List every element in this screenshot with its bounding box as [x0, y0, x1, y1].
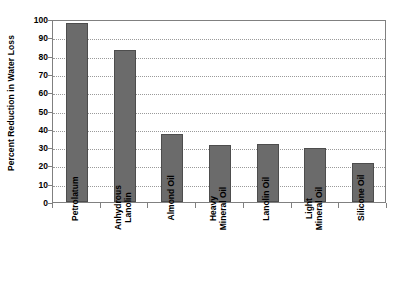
- x-category-label-text: Petrolatum: [71, 176, 81, 220]
- x-category-label-line: Mineral Oil: [219, 187, 229, 230]
- x-category-label: Almond Oil: [147, 209, 195, 281]
- x-category-label-text: Lanolin Oil: [262, 177, 272, 221]
- x-category-label-text: LightMineral Oil: [305, 187, 324, 230]
- x-tick-mark: [147, 203, 148, 208]
- x-tick-mark: [195, 203, 196, 208]
- x-category-label: LightMineral Oil: [291, 209, 339, 281]
- x-category-label-line: Mineral Oil: [314, 187, 324, 230]
- y-tick-label: 20: [24, 162, 48, 171]
- x-category-label-text: Silicone Oil: [357, 174, 367, 220]
- x-tick-mark: [243, 203, 244, 208]
- y-axis-tick-labels: 0102030405060708090100: [24, 14, 48, 208]
- y-axis-title-text: Percent Reduction in Water Loss: [6, 35, 16, 171]
- x-category-label-line: Anhydrous: [113, 185, 123, 230]
- x-category-label-text: Almond Oil: [167, 175, 177, 220]
- x-axis-category-labels: PetrolatumAnhydrousLanolinAlmond OilHeav…: [52, 209, 386, 281]
- x-category-label: Lanolin Oil: [243, 209, 291, 281]
- y-tick-label: 70: [24, 70, 48, 79]
- x-category-label: Silicone Oil: [338, 209, 386, 281]
- bar: [114, 50, 136, 202]
- y-tick-label: 10: [24, 180, 48, 189]
- x-category-label-text: HeavyMineral Oil: [209, 187, 228, 230]
- y-tick-label: 100: [24, 16, 48, 25]
- bar: [66, 23, 88, 202]
- x-category-label: AnhydrousLanolin: [100, 209, 148, 281]
- x-tick-mark: [338, 203, 339, 208]
- x-tick-mark: [291, 203, 292, 208]
- y-tick-label: 60: [24, 89, 48, 98]
- bar-chart: Percent Reduction in Water Loss 01020304…: [0, 0, 405, 281]
- x-tick-mark: [386, 203, 387, 208]
- y-tick-label: 0: [24, 199, 48, 208]
- x-category-label-line: Silicone Oil: [356, 174, 366, 220]
- y-axis-title: Percent Reduction in Water Loss: [0, 0, 22, 205]
- x-category-label-line: Lanolin: [124, 185, 134, 230]
- y-tick-label: 40: [24, 125, 48, 134]
- y-tick-label: 90: [24, 34, 48, 43]
- bars-group: [53, 21, 385, 202]
- y-tick-label: 80: [24, 52, 48, 61]
- y-tick-label: 30: [24, 144, 48, 153]
- x-category-label: HeavyMineral Oil: [195, 209, 243, 281]
- plot-area: [52, 20, 386, 203]
- y-tick-label: 50: [24, 107, 48, 116]
- x-category-label-line: Almond Oil: [166, 175, 176, 220]
- x-tick-mark: [100, 203, 101, 208]
- x-category-label: Petrolatum: [52, 209, 100, 281]
- x-category-label-line: Heavy: [208, 196, 218, 221]
- x-tick-mark: [52, 203, 53, 208]
- x-category-label-line: Light: [304, 198, 314, 219]
- x-category-label-line: Petrolatum: [70, 176, 80, 220]
- x-category-label-line: Lanolin Oil: [261, 177, 271, 221]
- x-category-label-text: AnhydrousLanolin: [114, 185, 133, 230]
